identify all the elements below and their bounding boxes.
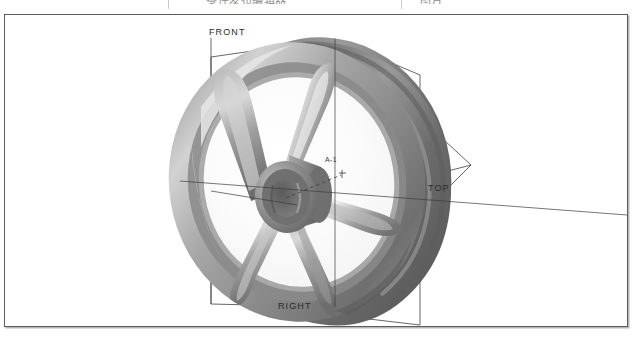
datum-label-top[interactable]: TOP [428,183,450,193]
3d-model-viewport[interactable]: FRONT TOP RIGHT A-1 [4,14,628,327]
model-render-canvas [5,15,627,326]
datum-label-right[interactable]: RIGHT [278,301,312,311]
origin-label[interactable]: A-1 [325,155,337,165]
titlebar-title: 零件发布编辑器 [206,0,396,4]
model-scene[interactable]: FRONT TOP RIGHT A-1 [5,15,627,326]
titlebar-divider-right [401,0,402,9]
datum-label-front[interactable]: FRONT [209,27,246,37]
titlebar-divider-left [168,0,169,9]
titlebar-secondary-title: 图片 [420,0,510,4]
flywheel-model [149,19,472,326]
window-titlebar-strip: 零件发布编辑器 图片 [0,0,637,9]
